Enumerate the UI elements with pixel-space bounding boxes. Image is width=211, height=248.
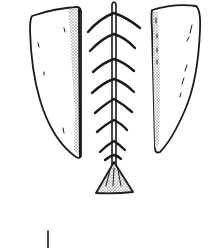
barbs (88, 13, 140, 160)
figure-drawing (0, 0, 211, 248)
right-flake (152, 5, 201, 152)
left-flake (30, 7, 81, 158)
triangular-base (96, 162, 133, 193)
barbed-shaft (88, 2, 140, 165)
